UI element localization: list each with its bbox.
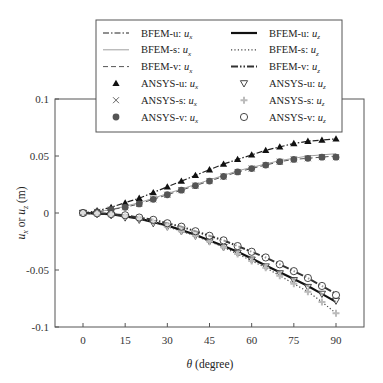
triangle-up-marker	[192, 172, 199, 178]
legend: BFEM-u: uxBFEM-s: uxBFEM-v: uxANSYS-u: u…	[96, 20, 342, 132]
circle-open-marker	[262, 254, 269, 261]
x-tick-label: 0	[80, 334, 86, 346]
circle-marker	[136, 200, 143, 207]
triangle-up-marker	[332, 135, 339, 141]
circle-open-marker	[220, 237, 227, 244]
y-tick-label: 0	[44, 207, 50, 219]
circle-open-marker	[150, 216, 157, 223]
circle-open-marker	[122, 212, 129, 219]
series-markers	[79, 135, 339, 215]
plus-marker	[304, 288, 311, 295]
circle-open-marker	[192, 228, 199, 235]
circle-open-marker	[304, 274, 311, 281]
circle-open-marker	[240, 113, 247, 120]
x-axis-label: θ (degree)	[187, 358, 234, 371]
y-tick-label: 0.1	[35, 93, 49, 105]
circle-open-marker	[318, 282, 325, 289]
circle-open-marker	[276, 261, 283, 268]
x-tick-label: 60	[246, 334, 258, 346]
circle-open-marker	[248, 248, 255, 255]
series-line	[83, 139, 336, 213]
circle-marker	[178, 187, 185, 194]
series-layer	[79, 135, 339, 317]
series-line	[83, 213, 336, 302]
y-tick-label: -0.1	[32, 321, 49, 333]
circle-marker	[276, 158, 283, 165]
circle-open-marker	[79, 209, 86, 216]
triangle-up-marker	[290, 140, 297, 146]
circle-marker	[290, 156, 297, 163]
circle-open-marker	[108, 211, 115, 218]
y-tick-label: 0.05	[30, 150, 50, 162]
triangle-up-marker	[206, 166, 213, 172]
x-tick-label: 15	[120, 334, 132, 346]
y-axis-label: ux or uz (m)	[15, 186, 30, 239]
x-tick-label: 30	[162, 334, 174, 346]
x-tick-label: 75	[288, 334, 300, 346]
circle-marker	[206, 178, 213, 185]
circle-marker	[234, 169, 241, 176]
circle-open-marker	[178, 223, 185, 230]
circle-open-marker	[93, 210, 100, 217]
circle-open-marker	[332, 291, 339, 298]
circle-marker	[262, 162, 269, 169]
series-markers	[80, 154, 339, 216]
y-tick-label: -0.05	[26, 264, 49, 276]
circle-open-marker	[206, 232, 213, 239]
series-line	[83, 213, 336, 313]
series-markers	[79, 209, 339, 298]
circle-marker	[304, 155, 311, 162]
circle-marker	[248, 165, 255, 172]
circle-marker	[122, 204, 129, 211]
series-markers	[79, 210, 339, 304]
circle-marker	[319, 154, 326, 161]
circle-marker	[192, 182, 199, 189]
series-markers	[80, 210, 340, 317]
circle-open-marker	[234, 242, 241, 249]
chart: 01530456075900.10.050-0.05-0.1 BFEM-u: u…	[0, 0, 383, 383]
triangle-up-marker	[164, 183, 171, 189]
triangle-up-marker	[150, 189, 157, 195]
circle-open-marker	[136, 214, 143, 221]
circle-marker	[150, 196, 157, 203]
circle-marker	[220, 173, 227, 180]
circle-marker	[164, 191, 171, 198]
x-tick-label: 45	[204, 334, 216, 346]
circle-marker	[113, 114, 120, 121]
x-tick-label: 90	[331, 334, 343, 346]
series-markers	[80, 154, 340, 217]
circle-open-marker	[164, 220, 171, 227]
circle-open-marker	[290, 268, 297, 275]
circle-marker	[333, 154, 340, 161]
